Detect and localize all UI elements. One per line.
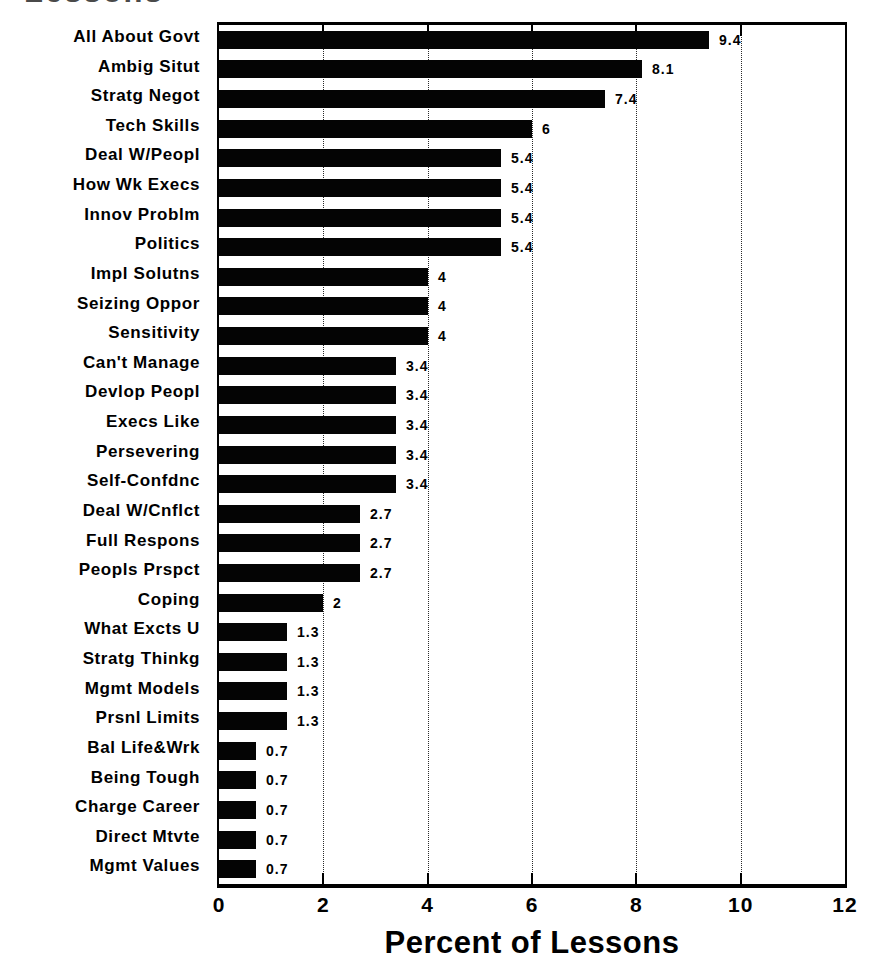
category-label: Prsnl Limits: [0, 703, 200, 733]
bar: [219, 564, 360, 582]
bar: [219, 682, 287, 700]
bar: [219, 179, 501, 197]
bar: [219, 238, 501, 256]
x-tick-label: 6: [526, 893, 539, 917]
category-label: How Wk Execs: [0, 170, 200, 200]
value-label: 3.4: [406, 357, 428, 375]
value-label: 7.4: [615, 90, 637, 108]
bar-chart: Lessons All About GovtAmbig SitutStratg …: [0, 0, 870, 968]
value-label: 5.4: [511, 209, 533, 227]
category-label: Deal W/Cnflct: [0, 496, 200, 526]
value-label: 3.4: [406, 416, 428, 434]
bar: [219, 60, 642, 78]
bar: [219, 623, 287, 641]
category-label: Bal Life&Wrk: [0, 733, 200, 763]
chart-title: Lessons: [24, 0, 164, 10]
value-label: 4: [438, 268, 447, 286]
value-label: 6: [542, 120, 551, 138]
value-label: 4: [438, 327, 447, 345]
value-label: 0.7: [266, 771, 288, 789]
bar: [219, 149, 501, 167]
category-label: Tech Skills: [0, 111, 200, 141]
value-label: 0.7: [266, 742, 288, 760]
bar: [219, 594, 323, 612]
bar: [219, 712, 287, 730]
x-tick-label: 0: [213, 893, 226, 917]
category-label: Ambig Situt: [0, 52, 200, 82]
value-label: 1.3: [297, 712, 319, 730]
value-label: 1.3: [297, 623, 319, 641]
bar: [219, 860, 256, 878]
axis-tick: [427, 873, 429, 884]
category-label: Direct Mtvte: [0, 822, 200, 852]
value-label: 1.3: [297, 682, 319, 700]
y-axis-category-labels: All About GovtAmbig SitutStratg NegotTec…: [0, 22, 200, 881]
bar: [219, 357, 396, 375]
plot-area: 9.48.17.465.45.45.45.44443.43.43.43.43.4…: [217, 22, 847, 888]
category-label: Devlop Peopl: [0, 377, 200, 407]
category-label: Being Tough: [0, 763, 200, 793]
value-label: 2.7: [370, 505, 392, 523]
x-tick-label: 4: [421, 893, 434, 917]
value-label: 3.4: [406, 475, 428, 493]
gridline: [741, 25, 742, 884]
axis-tick: [635, 873, 637, 884]
value-label: 9.4: [719, 31, 741, 49]
bar: [219, 653, 287, 671]
value-label: 2: [333, 594, 342, 612]
category-label: What Excts U: [0, 614, 200, 644]
bar: [219, 801, 256, 819]
x-tick-label: 10: [728, 893, 753, 917]
category-label: Execs Like: [0, 407, 200, 437]
value-label: 2.7: [370, 534, 392, 552]
value-label: 0.7: [266, 801, 288, 819]
bar: [219, 31, 709, 49]
category-label: Deal W/Peopl: [0, 140, 200, 170]
category-label: Self-Confdnc: [0, 466, 200, 496]
axis-tick: [740, 873, 742, 884]
bar: [219, 416, 396, 434]
value-label: 5.4: [511, 238, 533, 256]
category-label: Charge Career: [0, 792, 200, 822]
value-label: 5.4: [511, 179, 533, 197]
category-label: Persevering: [0, 437, 200, 467]
category-label: Stratg Negot: [0, 81, 200, 111]
bar: [219, 742, 256, 760]
value-label: 3.4: [406, 446, 428, 464]
bar: [219, 831, 256, 849]
x-tick-label: 12: [832, 893, 857, 917]
category-label: Mgmt Values: [0, 851, 200, 881]
category-label: Mgmt Models: [0, 674, 200, 704]
bar: [219, 268, 428, 286]
category-label: Full Respons: [0, 526, 200, 556]
category-label: Stratg Thinkg: [0, 644, 200, 674]
value-label: 0.7: [266, 831, 288, 849]
bar: [219, 505, 360, 523]
x-tick-label: 8: [630, 893, 643, 917]
value-label: 4: [438, 297, 447, 315]
bar: [219, 446, 396, 464]
bar: [219, 475, 396, 493]
bar: [219, 771, 256, 789]
bar: [219, 327, 428, 345]
value-label: 0.7: [266, 860, 288, 878]
bar: [219, 534, 360, 552]
value-label: 1.3: [297, 653, 319, 671]
category-label: Innov Problm: [0, 200, 200, 230]
category-label: Politics: [0, 229, 200, 259]
category-label: Seizing Oppor: [0, 289, 200, 319]
category-label: Impl Solutns: [0, 259, 200, 289]
category-label: Can't Manage: [0, 348, 200, 378]
category-label: Sensitivity: [0, 318, 200, 348]
value-label: 8.1: [652, 60, 674, 78]
axis-tick: [322, 873, 324, 884]
gridline: [636, 25, 637, 884]
x-axis: 024681012: [0, 889, 870, 919]
bar: [219, 120, 532, 138]
axis-tick: [531, 873, 533, 884]
category-label: All About Govt: [0, 22, 200, 52]
value-label: 3.4: [406, 386, 428, 404]
bar: [219, 386, 396, 404]
category-label: Peopls Prspct: [0, 555, 200, 585]
bar: [219, 297, 428, 315]
